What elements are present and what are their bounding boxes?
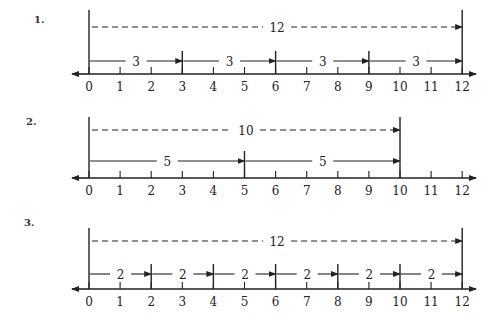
tick-label-10: 10 xyxy=(392,184,407,198)
tick-label-0: 0 xyxy=(85,184,93,198)
step-arrow-3-label: 3 xyxy=(226,55,234,69)
tick-label-4: 4 xyxy=(210,295,218,309)
step-arrow-5-label: 5 xyxy=(319,155,327,169)
number-line-2: 01234567891011121055 xyxy=(72,117,476,198)
step-arrow-2-label: 2 xyxy=(179,268,187,282)
step-arrow-10-label: 2 xyxy=(428,268,436,282)
total-dashed-arrow-label: 12 xyxy=(269,235,284,249)
number-line-1: 0123456789101112123333 xyxy=(72,10,476,94)
tick-label-3: 3 xyxy=(178,184,186,198)
tick-label-2: 2 xyxy=(147,80,155,94)
tick-label-1: 1 xyxy=(116,295,124,309)
tick-label-6: 6 xyxy=(272,184,280,198)
tick-label-6: 6 xyxy=(272,80,280,94)
tick-label-9: 9 xyxy=(365,184,373,198)
step-arrow-0-label: 3 xyxy=(132,55,140,69)
tick-label-1: 1 xyxy=(116,184,124,198)
step-arrow-4-label: 2 xyxy=(241,268,249,282)
tick-label-8: 8 xyxy=(334,80,342,94)
tick-label-0: 0 xyxy=(85,295,93,309)
step-arrow-0-label: 2 xyxy=(117,268,125,282)
tick-label-12: 12 xyxy=(455,184,470,198)
tick-label-11: 11 xyxy=(423,80,438,94)
tick-label-12: 12 xyxy=(455,80,470,94)
tick-label-7: 7 xyxy=(303,184,311,198)
step-arrow-9-label: 3 xyxy=(412,55,420,69)
tick-label-4: 4 xyxy=(210,184,218,198)
tick-label-11: 11 xyxy=(423,295,438,309)
tick-label-1: 1 xyxy=(116,80,124,94)
tick-label-4: 4 xyxy=(210,80,218,94)
tick-label-5: 5 xyxy=(241,184,249,198)
total-dashed-arrow-label: 12 xyxy=(269,21,284,35)
tick-label-3: 3 xyxy=(178,80,186,94)
tick-label-9: 9 xyxy=(365,80,373,94)
step-arrow-6-label: 3 xyxy=(319,55,327,69)
tick-label-7: 7 xyxy=(303,80,311,94)
tick-label-0: 0 xyxy=(85,80,93,94)
tick-label-2: 2 xyxy=(147,184,155,198)
tick-label-7: 7 xyxy=(303,295,311,309)
tick-label-8: 8 xyxy=(334,184,342,198)
tick-label-5: 5 xyxy=(241,295,249,309)
number-line-3: 012345678910111212222222 xyxy=(72,228,476,309)
tick-label-6: 6 xyxy=(272,295,280,309)
total-dashed-arrow-label: 10 xyxy=(238,124,253,138)
tick-label-11: 11 xyxy=(423,184,438,198)
tick-label-3: 3 xyxy=(178,295,186,309)
tick-label-10: 10 xyxy=(392,295,407,309)
step-arrow-6-label: 2 xyxy=(303,268,311,282)
step-arrow-0-label: 5 xyxy=(163,155,171,169)
tick-label-12: 12 xyxy=(455,295,470,309)
step-arrow-8-label: 2 xyxy=(366,268,374,282)
tick-label-10: 10 xyxy=(392,80,407,94)
tick-label-2: 2 xyxy=(147,295,155,309)
number-line-diagrams: 0123456789101112123333012345678910111210… xyxy=(0,0,498,331)
tick-label-9: 9 xyxy=(365,295,373,309)
tick-label-8: 8 xyxy=(334,295,342,309)
tick-label-5: 5 xyxy=(241,80,249,94)
